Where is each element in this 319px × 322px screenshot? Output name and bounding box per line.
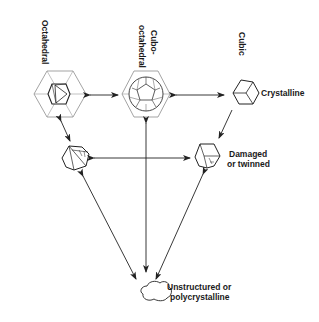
label-octahedral: Octahedral [40,20,50,64]
cuboctahedron-in-hexagon-icon [122,71,170,117]
arrow-octa-twinned [61,121,70,141]
label-crystalline: Crystalline [261,88,304,98]
label-cubo-octahedral-line2: octahedral [137,25,147,68]
cube-icon [233,80,259,104]
label-damaged-line2: or twinned [227,159,270,169]
arrow-cubic-damaged [219,110,232,138]
label-unstructured-line1: Unstructured or [167,282,231,292]
label-damaged-line1: Damaged [229,149,267,159]
label-unstructured-line2: polycrystalline [170,292,230,302]
damaged-polyhedron-icon [195,144,220,168]
twinned-polyhedron-icon [62,146,89,170]
arrow-twinned-unstructured [83,176,136,279]
arrows [61,95,232,279]
label-cubo-octahedral-line1: Cubo- [149,30,159,55]
octahedron-in-hexagon-icon [34,71,86,117]
arrow-damaged-unstructured [156,174,203,279]
label-cubic: Cubic [237,32,247,56]
